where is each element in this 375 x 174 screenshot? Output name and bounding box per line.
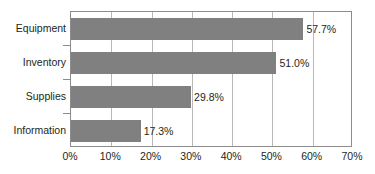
- bar-value-label: 29.8%: [191, 91, 224, 103]
- x-tick-10%: 10%: [100, 150, 121, 164]
- bar-value-label: 51.0%: [276, 57, 309, 69]
- category-label-supplies: Supplies: [26, 91, 66, 102]
- plot-area: 57.7%51.0%29.8%17.3%: [70, 11, 352, 147]
- x-axis-tick-labels: 0%10%20%30%40%50%60%70%: [0, 150, 375, 168]
- bar-row: 57.7%: [71, 18, 353, 40]
- x-tick-60%: 60%: [301, 150, 322, 164]
- bar-inventory: [71, 52, 276, 74]
- bar-value-label: 57.7%: [303, 23, 336, 35]
- bar-row: 29.8%: [71, 86, 353, 108]
- x-tick-50%: 50%: [261, 150, 282, 164]
- x-tick-40%: 40%: [221, 150, 242, 164]
- category-label-information: Information: [13, 125, 66, 136]
- x-tick-70%: 70%: [341, 150, 362, 164]
- y-axis-tick: [63, 113, 70, 114]
- bar-information: [71, 120, 141, 142]
- bar-chart: EquipmentInventorySuppliesInformation 57…: [0, 0, 375, 174]
- x-tick-20%: 20%: [140, 150, 161, 164]
- bar-row: 51.0%: [71, 52, 353, 74]
- category-label-inventory: Inventory: [23, 57, 66, 68]
- y-axis-tick: [63, 79, 70, 80]
- y-axis-tick: [63, 45, 70, 46]
- category-axis-labels: EquipmentInventorySuppliesInformation: [0, 11, 66, 147]
- x-tick-0%: 0%: [62, 150, 77, 164]
- bar-row: 17.3%: [71, 120, 353, 142]
- bar-supplies: [71, 86, 191, 108]
- bar-equipment: [71, 18, 303, 40]
- category-label-equipment: Equipment: [16, 23, 66, 34]
- bar-value-label: 17.3%: [141, 125, 174, 137]
- x-tick-30%: 30%: [180, 150, 201, 164]
